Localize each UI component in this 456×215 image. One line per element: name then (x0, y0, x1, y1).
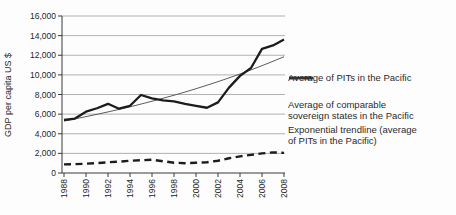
legend-item-exponential-trendline: Exponential trendline (average of PITs i… (288, 124, 456, 146)
y-axis-tick-label: 14,000 (30, 31, 56, 41)
legend: Average of PITs in the Pacific Average o… (288, 72, 456, 146)
x-axis-tick-label: 1994 (125, 179, 135, 198)
y-axis-tick-label: 10,000 (30, 70, 56, 80)
x-axis-tick-label: 1988 (59, 179, 69, 198)
line-comparable-sovereign-states (64, 152, 284, 164)
x-axis-tick-label: 2008 (279, 179, 289, 198)
thin-line-swatch-icon (288, 72, 314, 84)
legend-label-line: sovereign states in the Pacific (288, 110, 414, 121)
legend-label-line: Average of comparable (288, 99, 414, 110)
gdp-line-chart: GDP per capita US $ 02,0004,0006,0008,00… (0, 0, 456, 215)
legend-item-comparable-sovereign: Average of comparable sovereign states i… (288, 99, 456, 121)
y-axis-title: GDP per capita US $ (3, 53, 13, 137)
x-axis-tick-label: 1996 (147, 179, 157, 198)
line-average-pits (64, 40, 284, 120)
x-axis-tick-label: 1992 (103, 179, 113, 198)
x-axis-tick-label: 2006 (257, 179, 267, 198)
legend-label-exponential-trendline: Exponential trendline (average of PITs i… (288, 124, 417, 146)
legend-label-line: of PITs in the Pacific) (288, 135, 417, 146)
x-axis-tick-label: 2002 (213, 179, 223, 198)
y-axis-tick-label: 6,000 (35, 109, 57, 119)
y-axis-tick-label: 2,000 (35, 148, 57, 158)
y-axis-tick-label: 12,000 (30, 50, 56, 60)
x-axis-tick-label: 1998 (169, 179, 179, 198)
y-axis-tick-label: 8,000 (35, 90, 57, 100)
y-axis-tick-label: 4,000 (35, 129, 57, 139)
y-axis-tick-label: 16,000 (30, 11, 56, 21)
legend-label-comparable-sovereign: Average of comparable sovereign states i… (288, 99, 414, 121)
x-axis-tick-label: 2004 (235, 179, 245, 198)
x-axis-tick-label: 2000 (191, 179, 201, 198)
x-axis-tick-label: 1990 (81, 179, 91, 198)
legend-label-line: Exponential trendline (average (288, 124, 417, 135)
y-axis-tick-label: 0 (51, 168, 56, 178)
